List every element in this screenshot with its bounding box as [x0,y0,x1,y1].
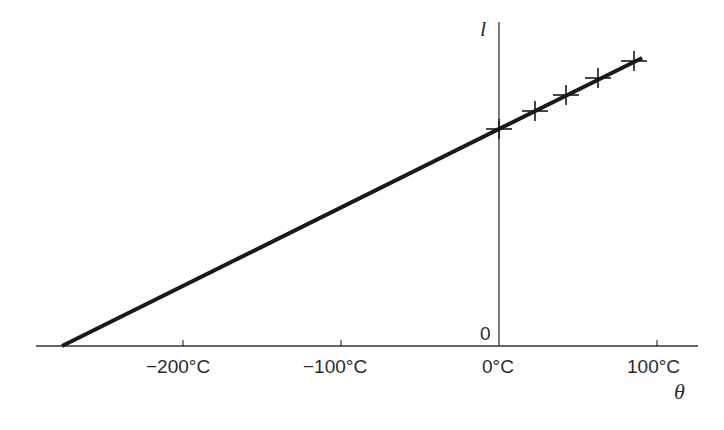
tick-label-m100: −100°C [303,356,367,377]
y-axis-label: l [480,16,486,41]
tick-label-0: 0°C [482,356,514,377]
chart: l 0 −200°C −100°C 0°C 100°C θ [0,0,724,430]
data-line [62,58,642,346]
data-markers [486,51,647,139]
origin-label: 0 [480,323,491,344]
x-axis-label: θ [674,379,685,404]
tick-label-m200: −200°C [146,356,210,377]
tick-label-100: 100°C [627,356,680,377]
